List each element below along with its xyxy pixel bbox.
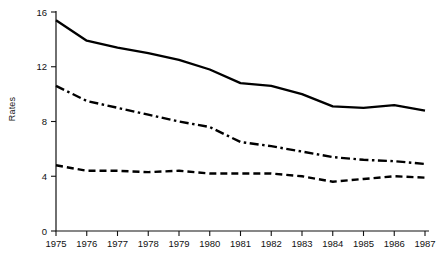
x-tick-label: 1984 (322, 238, 343, 249)
y-axis-title: Rates (7, 79, 17, 139)
x-tick-label: 1979 (168, 238, 189, 249)
series-solid-series (56, 20, 425, 110)
y-tick-label: 12 (36, 61, 47, 72)
series-dashed-series (56, 165, 425, 181)
x-tick-label: 1977 (107, 238, 128, 249)
y-tick-label: 0 (42, 226, 47, 237)
x-tick-label: 1986 (384, 238, 405, 249)
x-tick-label: 1980 (199, 238, 220, 249)
y-tick-label: 4 (42, 171, 47, 182)
x-tick-label: 1982 (261, 238, 282, 249)
x-axis-ticks: 1975197619771978197919801981198219831984… (45, 231, 435, 249)
x-tick-label: 1976 (76, 238, 97, 249)
x-tick-label: 1975 (45, 238, 66, 249)
x-tick-label: 1985 (353, 238, 374, 249)
line-chart: Rates 0481216 19751976197719781979198019… (0, 0, 445, 264)
data-series-group (56, 20, 425, 182)
x-tick-label: 1987 (414, 238, 435, 249)
series-dash-dot-series (56, 86, 425, 164)
axes-lines (56, 11, 429, 231)
chart-plot-area: 0481216 19751976197719781979198019811982… (0, 0, 445, 264)
y-axis-ticks: 0481216 (36, 7, 56, 237)
x-tick-label: 1983 (291, 238, 312, 249)
x-tick-label: 1978 (138, 238, 159, 249)
x-tick-label: 1981 (230, 238, 251, 249)
y-tick-label: 8 (42, 116, 47, 127)
y-tick-label: 16 (36, 7, 47, 18)
